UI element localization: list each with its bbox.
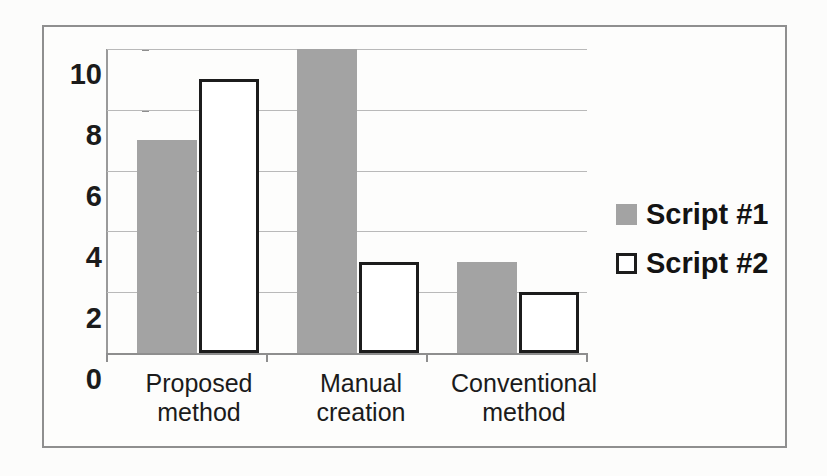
x-axis-tick-0: [106, 353, 108, 362]
legend-label-script-2: Script #2: [646, 247, 769, 280]
figure-frame: 10 8 6 4 2 0: [42, 25, 787, 448]
legend-label-script-1: Script #1: [646, 198, 769, 231]
x-axis-category-conventional-method: Conventional method: [434, 369, 614, 426]
x-axis-category-proposed-method: Proposed method: [114, 369, 284, 426]
bar-script2-manual-creation[interactable]: [359, 262, 419, 353]
y-axis-label-4: 4: [56, 243, 102, 272]
category-line-2: method: [114, 398, 284, 427]
y-axis-label-2: 2: [56, 304, 102, 333]
category-line-1: Proposed: [114, 369, 284, 398]
legend-item-script-2[interactable]: Script #2: [616, 239, 769, 288]
legend-item-script-1[interactable]: Script #1: [616, 190, 769, 239]
x-axis-tick-1: [266, 353, 268, 362]
bar-script1-proposed-method[interactable]: [137, 140, 197, 353]
bar-script2-proposed-method[interactable]: [199, 79, 259, 353]
legend-swatch-filled-gray-icon: [616, 204, 637, 225]
y-axis-label-6: 6: [56, 182, 102, 211]
x-axis-tick-3: [586, 353, 588, 362]
legend-swatch-outlined-white-icon: [616, 253, 637, 274]
y-axis-label-0: 0: [56, 365, 102, 394]
bar-script2-conventional-method[interactable]: [519, 292, 579, 353]
plot-area: [107, 49, 587, 353]
category-line-2: method: [434, 398, 614, 427]
chart-page: 10 8 6 4 2 0: [0, 0, 827, 476]
bar-script1-manual-creation[interactable]: [297, 49, 357, 353]
x-axis-tick-2: [426, 353, 428, 362]
category-line-2: creation: [276, 398, 446, 427]
x-axis-category-manual-creation: Manual creation: [276, 369, 446, 426]
y-axis-label-8: 8: [56, 121, 102, 150]
category-line-1: Conventional: [434, 369, 614, 398]
chart-legend: Script #1 Script #2: [616, 190, 769, 288]
y-axis-label-10: 10: [56, 60, 102, 89]
x-axis-spine: [106, 353, 588, 355]
bar-script1-conventional-method[interactable]: [457, 262, 517, 353]
category-line-1: Manual: [276, 369, 446, 398]
